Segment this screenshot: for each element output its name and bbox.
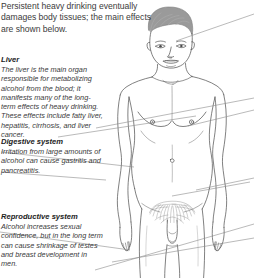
- callout-liver-heading: Liver: [1, 55, 105, 65]
- callout-digestive-body: Irritation from large amounts of alcohol…: [1, 147, 101, 175]
- callout-digestive-system: Digestive system Irritation from large a…: [1, 137, 101, 175]
- leader-liver-2: [188, 110, 254, 126]
- intro-paragraph: Persistent heavy drinking eventually dam…: [1, 1, 161, 35]
- callout-reproductive-body: Alcohol increases sexual confidence, but…: [1, 222, 105, 268]
- leader-head: [176, 14, 254, 41]
- callout-liver-body: The liver is the main organ responsible …: [1, 65, 105, 139]
- leader-liver: [96, 98, 254, 128]
- alcohol-body-effects-diagram: Persistent heavy drinking eventually dam…: [0, 0, 254, 278]
- leader-reproductive: [95, 224, 254, 270]
- callout-reproductive-heading: Reproductive system: [1, 212, 105, 222]
- leader-reproductive-2: [172, 182, 250, 196]
- leader-reproductive-3: [196, 178, 254, 190]
- callout-reproductive-system: Reproductive system Alcohol increases se…: [1, 212, 105, 268]
- leader-lower-right: [112, 238, 254, 262]
- callout-digestive-heading: Digestive system: [1, 137, 101, 147]
- callout-liver: Liver The liver is the main organ respon…: [1, 55, 105, 139]
